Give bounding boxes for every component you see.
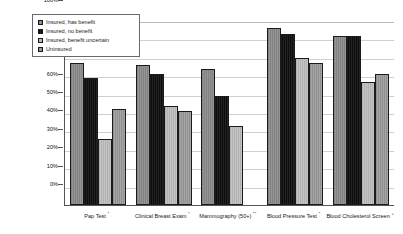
y-axis-tick-label: 50%	[0, 89, 58, 95]
bar	[164, 106, 178, 205]
bar	[309, 63, 323, 205]
y-axis-tick-mark	[58, 184, 63, 185]
y-axis-tick-mark	[58, 147, 63, 148]
legend-item: Insured, benefit uncertain	[38, 36, 135, 44]
bar	[70, 63, 84, 205]
bar	[333, 36, 347, 205]
x-axis-category-label: Blood Cholesterol Screen +	[326, 210, 394, 228]
legend-item: Uninsured	[38, 45, 135, 53]
bar	[150, 74, 164, 205]
x-axis-labels: Pap Test *Clinical Breast Exam *Mammogra…	[64, 210, 394, 228]
legend-label: Uninsured	[46, 46, 72, 53]
bar	[84, 78, 98, 205]
bar	[229, 126, 243, 205]
bar-group	[262, 22, 328, 205]
bar	[295, 58, 309, 205]
bar-group	[328, 22, 394, 205]
bar-group	[131, 22, 197, 205]
x-axis-footnote-mark: *	[107, 211, 109, 216]
y-axis-tick-mark	[58, 0, 63, 1]
y-axis-tick-mark	[58, 74, 63, 75]
legend-swatch-icon	[38, 47, 43, 52]
bar	[178, 111, 192, 205]
y-axis-tick-label: 10%	[0, 163, 58, 169]
bar	[215, 96, 229, 205]
y-axis-tick-label: 40%	[0, 107, 58, 113]
x-axis-footnote-mark: **	[253, 211, 257, 216]
x-axis-category-name: Blood Pressure Test	[267, 213, 317, 219]
x-axis-category-label: Mammography (50+) **	[195, 210, 261, 228]
x-axis-category-name: Mammography (50+)	[199, 213, 251, 219]
legend-label: Insured, no benefit	[46, 28, 92, 35]
x-axis-category-label: Clinical Breast Exam *	[130, 210, 196, 228]
x-axis-category-label: Blood Pressure Test *	[261, 210, 327, 228]
legend-swatch-icon	[38, 38, 43, 43]
y-axis-tick-label: 100%	[0, 0, 58, 3]
y-axis-tick-mark	[58, 129, 63, 130]
x-axis-footnote-mark: *	[188, 211, 190, 216]
bar	[112, 109, 126, 205]
legend-label: Insured, benefit uncertain	[46, 37, 109, 44]
legend-label: Insured, has benefit	[46, 19, 95, 26]
bar-chart: 100%90%80%70%60%50%40%30%20%10%0% Insure…	[0, 0, 403, 234]
x-axis-footnote-mark: *	[318, 211, 320, 216]
bar-group	[197, 22, 263, 205]
y-axis-tick-mark	[58, 166, 63, 167]
bar	[375, 74, 389, 205]
y-axis-tick-label: 60%	[0, 71, 58, 77]
y-axis-tick-label: 0%	[0, 181, 58, 187]
bar	[347, 36, 361, 205]
x-axis-category-name: Blood Cholesterol Screen	[326, 213, 389, 219]
legend-swatch-icon	[38, 20, 43, 25]
bar	[136, 65, 150, 205]
y-axis-tick-mark	[58, 110, 63, 111]
bar	[361, 82, 375, 205]
bar	[267, 28, 281, 205]
bar	[281, 34, 295, 205]
x-axis-footnote-mark: +	[391, 211, 394, 216]
x-axis-category-name: Clinical Breast Exam	[135, 213, 187, 219]
legend-item: Insured, no benefit	[38, 27, 135, 35]
legend-swatch-icon	[38, 29, 43, 34]
x-axis-category-label: Pap Test *	[64, 210, 130, 228]
bar	[98, 139, 112, 205]
chart-legend: Insured, has benefitInsured, no benefitI…	[32, 14, 140, 57]
y-axis-tick-label: 20%	[0, 144, 58, 150]
y-axis-tick-mark	[58, 92, 63, 93]
x-axis-category-name: Pap Test	[84, 213, 106, 219]
y-axis-tick-label: 30%	[0, 126, 58, 132]
legend-item: Insured, has benefit	[38, 18, 135, 26]
bar	[201, 69, 215, 205]
